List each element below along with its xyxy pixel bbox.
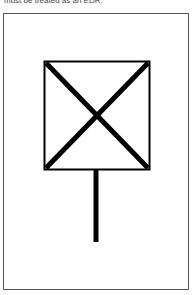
x-box-post-icon xyxy=(0,0,195,295)
